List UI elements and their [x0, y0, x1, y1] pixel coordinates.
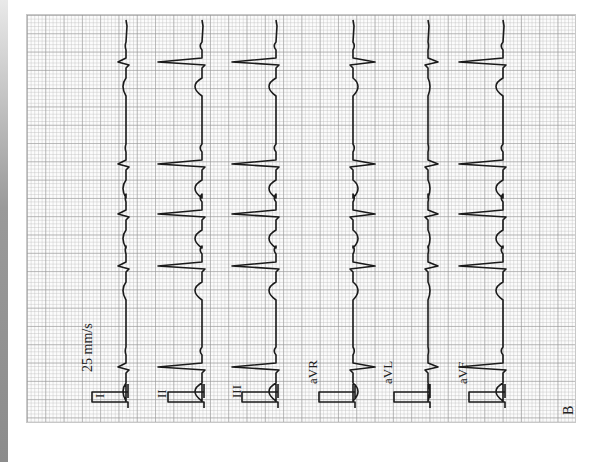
lead-label-III: III	[229, 385, 245, 398]
lead-label-aVR: aVR	[305, 360, 321, 384]
lead-label-I: I	[92, 394, 108, 398]
panel-letter: B	[561, 406, 577, 415]
ecg-trace-aVL	[394, 20, 438, 408]
paper-speed-label: 25 mm/s	[80, 323, 96, 372]
ecg-trace-aVF	[459, 20, 506, 408]
ecg-traces	[0, 0, 598, 462]
lead-label-aVL: aVL	[380, 361, 396, 384]
ecg-trace-III	[232, 20, 279, 408]
lead-label-aVF: aVF	[455, 362, 471, 384]
ecg-trace-II	[158, 20, 205, 408]
lead-label-II: II	[154, 389, 170, 398]
ecg-trace-aVR	[319, 20, 375, 408]
ecg-trace-I	[92, 20, 129, 408]
